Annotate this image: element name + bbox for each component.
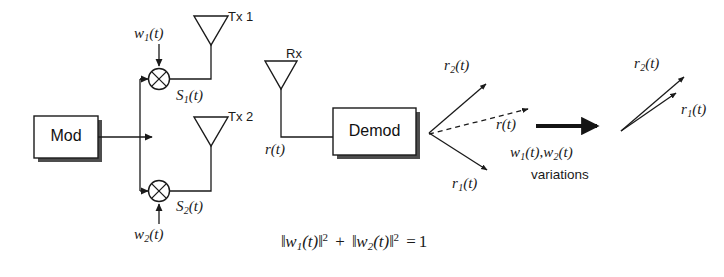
- w1-label: w1(t): [134, 26, 163, 43]
- demod-block-label: Demod: [333, 123, 416, 139]
- vector-label-r2-right: r2(t): [634, 56, 659, 73]
- figure-root: Mod w1(t) S1(t) Tx 1 Tx 2 S2(t) w2(t) Rx…: [0, 0, 724, 277]
- tx1-label: Tx 1: [228, 10, 253, 23]
- tx1-antenna-triangle: [194, 16, 228, 45]
- w2-label: w2(t): [134, 227, 163, 244]
- s1-wire: [170, 44, 212, 79]
- vector-label-r1-left: r1(t): [452, 176, 477, 193]
- vector-label-r1-right: r1(t): [681, 102, 706, 119]
- s2-label: S2(t): [176, 199, 203, 216]
- constraint-equation: ‖w1(t)‖2 + ‖w2(t)‖2 =1: [281, 232, 427, 252]
- tx2-label: Tx 2: [228, 110, 253, 123]
- s2-wire: [170, 146, 212, 191]
- rx-wire: [281, 89, 333, 137]
- mod-block-label: Mod: [43, 128, 89, 144]
- vector-r2-right: [621, 77, 684, 131]
- vector-r2-left: [429, 84, 486, 133]
- variations-weights-label: w1(t),w2(t): [510, 145, 573, 162]
- rx-received-label: r(t): [265, 142, 285, 157]
- rx-antenna-triangle: [265, 61, 297, 89]
- vector-r1-left: [429, 133, 487, 170]
- s1-label: S1(t): [176, 88, 203, 105]
- tx2-antenna-triangle: [194, 117, 228, 146]
- vector-r1-right: [621, 93, 676, 131]
- variations-caption: variations: [531, 168, 589, 182]
- rx-label: Rx: [286, 47, 302, 60]
- vector-label-r-resultant: r(t): [496, 117, 516, 132]
- vector-label-r2-left: r2(t): [444, 58, 469, 75]
